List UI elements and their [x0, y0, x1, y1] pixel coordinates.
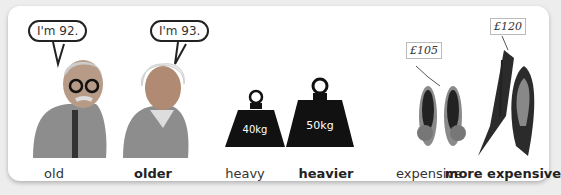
- price-tag-120: £120: [490, 18, 526, 35]
- label-heavy: heavy: [225, 166, 265, 181]
- price-tag-105: £105: [406, 42, 442, 59]
- svg-text:50kg: 50kg: [306, 119, 333, 132]
- weight-50kg-icon: 50kg: [286, 79, 354, 147]
- speech-bubble-older: I'm 93.: [150, 20, 209, 42]
- speech-tail-older: [175, 42, 186, 64]
- label-old: old: [44, 166, 64, 181]
- vocabulary-card: I'm 92. 40kg 50kg: [8, 6, 549, 181]
- old-man-illustration: [33, 60, 106, 158]
- label-more-expensive: more expensive: [445, 166, 561, 181]
- high-heels-illustration: [478, 36, 534, 156]
- weight-40kg-icon: 40kg: [225, 91, 285, 147]
- svg-text:40kg: 40kg: [243, 124, 268, 135]
- label-older: older: [134, 166, 172, 181]
- comparison-illustrations: 40kg 50kg: [8, 6, 549, 181]
- label-heavier: heavier: [298, 166, 353, 181]
- speech-tail-old: [53, 42, 64, 64]
- old-woman-illustration: [123, 64, 188, 158]
- flat-shoes-illustration: [416, 66, 466, 146]
